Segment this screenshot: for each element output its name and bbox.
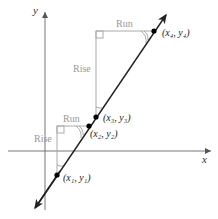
y-axis-label: y <box>33 4 38 16</box>
x-axis-label: x <box>202 153 207 165</box>
point-3-label: (x₃, y₃) <box>103 112 131 123</box>
point-3 <box>93 114 98 119</box>
large-triangle <box>96 31 154 117</box>
point-4-label: (x₄, y₄) <box>162 27 190 38</box>
run-label-large: Run <box>116 18 133 29</box>
rise-label-large: Rise <box>73 63 91 74</box>
point-1 <box>54 172 59 177</box>
point-1-label: (x₁, y₁) <box>63 172 91 183</box>
run-label-small: Run <box>63 113 80 124</box>
rise-label-small: Rise <box>34 133 52 144</box>
point-2-label: (x₂, y₂) <box>90 128 118 139</box>
point-4 <box>151 28 156 33</box>
